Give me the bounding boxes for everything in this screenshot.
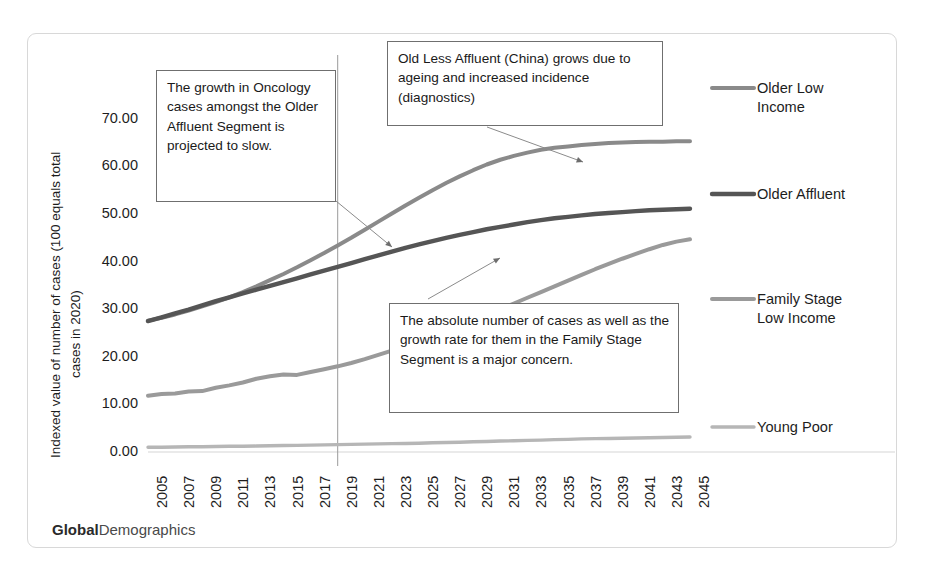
brand-bold: Global — [52, 521, 99, 538]
leader-family-stage-arrowhead — [493, 258, 500, 264]
annotation-family-stage-concern: The absolute number of cases as well as … — [389, 303, 679, 413]
leader-china-arrowhead — [576, 157, 583, 162]
brand-rest: Demographics — [99, 521, 196, 538]
series-line-3 — [148, 437, 690, 447]
brand-logo: GlobalDemographics — [52, 521, 195, 538]
legend-label-1: Older Affluent — [757, 185, 845, 204]
annotation-china-growth: Old Less Affluent (China) grows due to a… — [387, 41, 663, 126]
leader-family-stage — [428, 258, 500, 299]
chart-stage: Indexed value of number of cases (100 eq… — [0, 0, 929, 586]
legend-label-0: Older Low Income — [757, 79, 824, 117]
annotation-oncology-slowdown: The growth in Oncology cases amongst the… — [156, 70, 336, 202]
legend-label-2: Family Stage Low Income — [757, 290, 842, 328]
legend-label-3: Young Poor — [757, 418, 833, 437]
